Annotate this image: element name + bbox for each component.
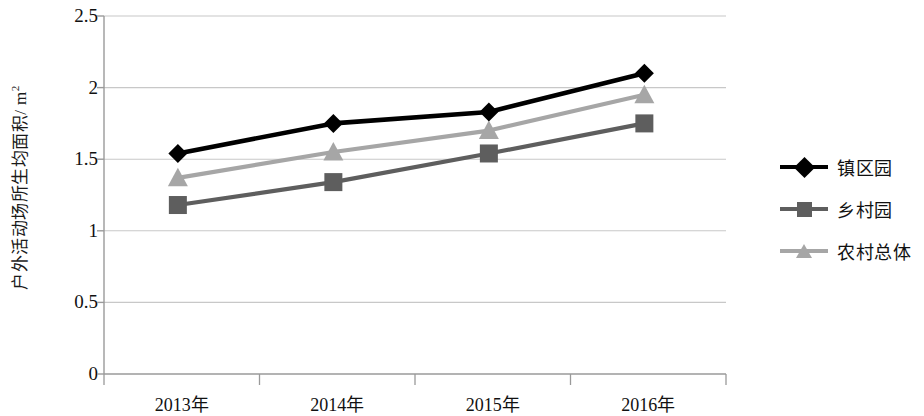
legend-item-农村总体[interactable]: 农村总体 (780, 230, 924, 272)
legend-square-marker-icon (797, 202, 812, 217)
data-point-marker (635, 114, 653, 132)
legend-swatch (780, 198, 828, 220)
data-point-marker (479, 102, 498, 121)
data-point-marker (324, 173, 342, 191)
series-乡村园 (169, 114, 654, 214)
x-axis-tick-label: 2016年 (571, 390, 727, 416)
x-axis-tick-label: 2013年 (104, 390, 260, 416)
x-axis-tick-label: 2015年 (415, 390, 571, 416)
legend-swatch (780, 156, 828, 178)
legend-label: 乡村园 (828, 196, 893, 222)
legend-triangle-marker-icon (796, 244, 812, 258)
x-axis-tick-label: 2014年 (260, 390, 416, 416)
series-镇区园 (168, 64, 654, 163)
chart-legend: 镇区园乡村园农村总体 (780, 146, 924, 272)
legend-diamond-marker-icon (794, 157, 815, 178)
data-point-marker (480, 144, 498, 162)
legend-item-镇区园[interactable]: 镇区园 (780, 146, 924, 188)
legend-label: 镇区园 (828, 154, 893, 180)
data-point-marker (169, 196, 187, 214)
data-point-marker (635, 64, 654, 83)
legend-swatch (780, 240, 828, 262)
data-point-marker (324, 114, 343, 133)
data-point-marker (168, 144, 187, 163)
legend-label: 农村总体 (828, 238, 911, 264)
legend-item-乡村园[interactable]: 乡村园 (780, 188, 924, 230)
